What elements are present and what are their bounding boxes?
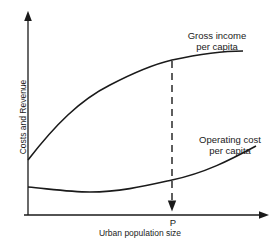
x-axis-label: Urban population size [70, 228, 210, 239]
gross-income-label-line1: Gross income [162, 30, 272, 41]
marker-p-label: P [167, 217, 179, 228]
y-axis-label: Costs and Revenue [18, 72, 28, 162]
gross-income-label-line2: per capita [162, 41, 272, 52]
operating-cost-label-line1: Operating cost [175, 134, 279, 145]
operating-cost-label: Operating cost per capita [175, 134, 279, 156]
operating-cost-label-line2: per capita [175, 145, 279, 156]
gross-income-label: Gross income per capita [162, 30, 272, 52]
